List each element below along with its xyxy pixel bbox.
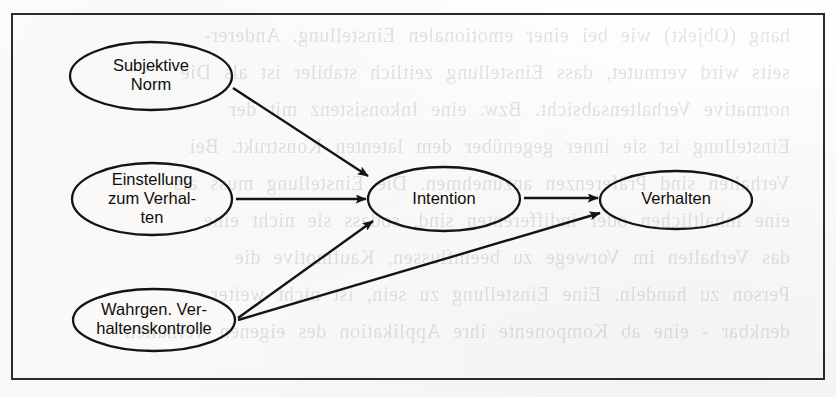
node-subjektive-norm: Subjektive Norm — [70, 42, 232, 110]
scanned-figure-page: hang (Objekt) wie bei einer emotionalen … — [0, 0, 836, 397]
edge-verhaltenskontrolle-to-intention — [238, 221, 373, 318]
node-label-line: Intention — [412, 189, 475, 207]
node-intention: Intention — [368, 167, 520, 231]
node-label-line: Verhalten — [641, 189, 711, 207]
node-verhalten: Verhalten — [600, 171, 752, 229]
node-label-line: haltenskontrolle — [96, 319, 212, 337]
node-label-line: Wahrgen. Ver- — [101, 300, 207, 318]
node-label-line: Norm — [131, 75, 171, 93]
node-label-line: zum Verhal- — [108, 189, 196, 207]
node-wahrgenommene-verhaltenskontrolle: Wahrgen. Ver- haltenskontrolle — [73, 289, 235, 351]
node-einstellung-zum-verhalten: Einstellung zum Verhal- ten — [72, 163, 232, 235]
edge-subjektive-norm-to-intention — [233, 88, 368, 176]
node-label-line: Einstellung — [112, 170, 193, 188]
node-label-line: Subjektive — [113, 56, 189, 74]
theory-of-planned-behavior-diagram: Subjektive Norm Einstellung zum Verhal- … — [0, 0, 836, 397]
node-label-line: ten — [141, 208, 164, 226]
